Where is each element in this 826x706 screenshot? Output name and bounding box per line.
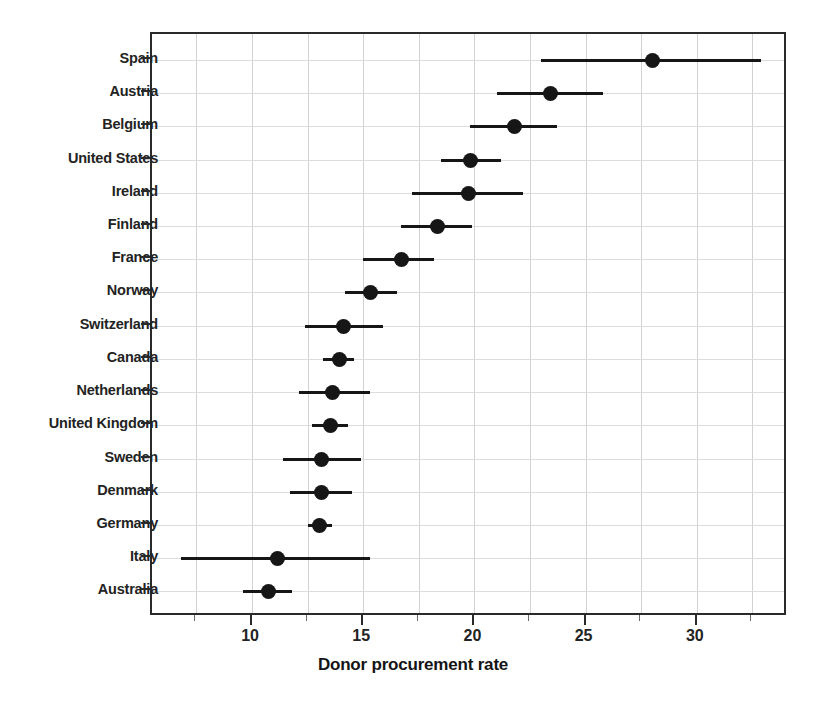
x-axis-tick-label: 15 <box>331 627 391 645</box>
y-axis-label-switzerland: Switzerland <box>0 316 158 332</box>
data-point-marker <box>261 584 276 599</box>
data-point-marker <box>394 252 409 267</box>
x-axis-title: Donor procurement rate <box>0 655 826 675</box>
x-axis-major-tick <box>695 615 697 625</box>
gridline-vertical <box>363 34 364 613</box>
y-axis-tick <box>141 489 150 491</box>
x-axis-major-tick <box>584 615 586 625</box>
y-axis-label-norway: Norway <box>0 282 158 298</box>
data-point-marker <box>314 485 329 500</box>
y-axis-label-austria: Austria <box>0 83 158 99</box>
x-axis-minor-tick <box>306 615 307 621</box>
gridline-vertical <box>641 34 642 613</box>
gridline-vertical <box>586 34 587 613</box>
y-axis-label-ireland: Ireland <box>0 183 158 199</box>
gridline-horizontal <box>152 326 784 327</box>
gridline-horizontal <box>152 392 784 393</box>
data-point-marker <box>270 551 285 566</box>
y-axis-tick <box>141 422 150 424</box>
gridline-horizontal <box>152 259 784 260</box>
dot-plot-figure: SpainAustriaBelgiumUnited StatesIrelandF… <box>0 0 826 706</box>
x-axis-tick-label: 20 <box>442 627 502 645</box>
plot-area <box>150 32 786 615</box>
y-axis-label-sweden: Sweden <box>0 449 158 465</box>
x-axis-minor-tick <box>750 615 751 621</box>
y-axis-tick <box>141 389 150 391</box>
y-axis-label-netherlands: Netherlands <box>0 382 158 398</box>
gridline-horizontal <box>152 525 784 526</box>
y-axis-tick <box>141 190 150 192</box>
x-axis-tick-label: 30 <box>665 627 725 645</box>
data-point-marker <box>325 385 340 400</box>
x-axis-major-tick <box>361 615 363 625</box>
x-axis-tick-label: 25 <box>554 627 614 645</box>
y-axis-tick <box>141 555 150 557</box>
x-axis-tick-label: 10 <box>220 627 280 645</box>
data-point-marker <box>645 53 660 68</box>
y-axis-label-germany: Germany <box>0 515 158 531</box>
gridline-vertical <box>752 34 753 613</box>
gridline-vertical <box>252 34 253 613</box>
x-axis-minor-tick <box>417 615 418 621</box>
y-axis-label-australia: Australia <box>0 581 158 597</box>
data-point-marker <box>461 186 476 201</box>
data-point-marker <box>312 518 327 533</box>
gridline-horizontal <box>152 492 784 493</box>
y-axis-label-finland: Finland <box>0 216 158 232</box>
y-axis-tick <box>141 123 150 125</box>
x-axis-minor-tick <box>194 615 195 621</box>
data-point-marker <box>543 86 558 101</box>
gridline-horizontal <box>152 359 784 360</box>
y-axis-tick <box>141 323 150 325</box>
y-axis-tick <box>141 522 150 524</box>
y-axis-tick <box>141 90 150 92</box>
y-axis-tick <box>141 456 150 458</box>
y-axis-tick <box>141 588 150 590</box>
gridline-horizontal <box>152 126 784 127</box>
y-axis-label-united-states: United States <box>0 150 158 166</box>
x-axis-major-tick <box>250 615 252 625</box>
x-axis-major-tick <box>472 615 474 625</box>
y-axis-tick <box>141 223 150 225</box>
data-point-marker <box>323 418 338 433</box>
y-axis-tick <box>141 57 150 59</box>
gridline-horizontal <box>152 292 784 293</box>
gridline-vertical <box>196 34 197 613</box>
data-point-marker <box>463 153 478 168</box>
y-axis-tick <box>141 157 150 159</box>
y-axis-label-canada: Canada <box>0 349 158 365</box>
gridline-horizontal <box>152 459 784 460</box>
y-axis-label-denmark: Denmark <box>0 482 158 498</box>
y-axis-tick <box>141 256 150 258</box>
data-point-marker <box>363 285 378 300</box>
x-axis-minor-tick <box>528 615 529 621</box>
x-axis-minor-tick <box>639 615 640 621</box>
y-axis-label-france: France <box>0 249 158 265</box>
gridline-horizontal <box>152 425 784 426</box>
data-point-marker <box>332 352 347 367</box>
y-axis-label-italy: Italy <box>0 548 158 564</box>
gridline-vertical <box>474 34 475 613</box>
data-point-marker <box>336 319 351 334</box>
data-point-marker <box>430 219 445 234</box>
y-axis-label-belgium: Belgium <box>0 116 158 132</box>
y-axis-tick <box>141 356 150 358</box>
y-axis-label-spain: Spain <box>0 50 158 66</box>
y-axis-tick <box>141 289 150 291</box>
gridline-vertical <box>530 34 531 613</box>
data-point-marker <box>314 452 329 467</box>
y-axis-label-united-kingdom: United Kingdom <box>0 415 158 431</box>
gridline-vertical <box>419 34 420 613</box>
gridline-horizontal <box>152 93 784 94</box>
gridline-vertical <box>697 34 698 613</box>
data-point-marker <box>507 119 522 134</box>
